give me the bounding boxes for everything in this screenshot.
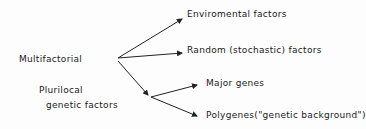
plurilocal-label: Plurilocal (39, 85, 83, 95)
environmental-factors-label: Enviromental factors (187, 9, 287, 19)
genetic-factors-label: genetic factors (46, 100, 118, 110)
polygenes-label: Polygenes("genetic background") (206, 110, 366, 120)
diagram-canvas: Multifactorial Plurilocal genetic factor… (0, 0, 366, 129)
random-factors-label: Random (stochastic) factors (187, 45, 322, 55)
arrow-to-major-genes (151, 85, 197, 97)
arrow-to-plurilocal (118, 61, 148, 95)
arrow-to-polygenes (151, 97, 197, 116)
source-label: Multifactorial (19, 54, 82, 64)
arrow-to-environmental (118, 19, 182, 58)
arrow-to-random (118, 53, 182, 58)
major-genes-label: Major genes (206, 78, 264, 88)
